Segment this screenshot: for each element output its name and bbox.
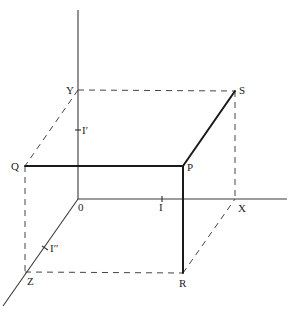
- label-s: S: [239, 84, 245, 96]
- label-r: R: [179, 277, 187, 289]
- coordinate-diagram: Y S Q P X Z R 0 I I′ I′′: [0, 0, 291, 312]
- dash-y-q: [25, 90, 78, 166]
- dash-r-x: [183, 199, 235, 273]
- label-q: Q: [11, 160, 19, 172]
- label-y-unit: I′: [82, 124, 88, 136]
- dash-y-s: [78, 90, 235, 91]
- z-axis: [3, 199, 78, 306]
- label-y: Y: [66, 84, 74, 96]
- label-x: X: [238, 202, 246, 214]
- segment-p-s: [183, 91, 235, 166]
- dash-z-r: [25, 272, 183, 273]
- label-x-unit: I: [159, 201, 163, 213]
- label-z-unit: I′′: [50, 242, 58, 254]
- label-origin: 0: [78, 201, 84, 213]
- label-p: P: [187, 161, 193, 173]
- label-z: Z: [27, 275, 34, 287]
